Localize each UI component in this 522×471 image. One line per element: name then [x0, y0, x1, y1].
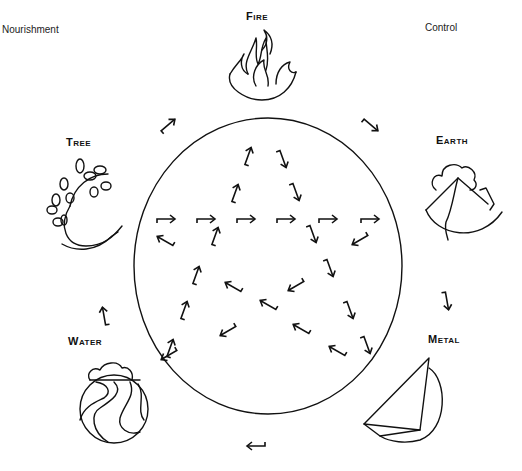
- nourishment-arrows: [98, 116, 452, 450]
- five-elements-diagram: [0, 0, 522, 471]
- metal-to-water-arrow: [247, 442, 265, 450]
- flame-icon: [229, 30, 296, 100]
- waves-icon: [80, 363, 148, 443]
- tree-to-fire-arrow: [159, 116, 178, 134]
- mountain-icon: [426, 165, 502, 240]
- control-arrows: [155, 146, 379, 363]
- central-circle: [134, 118, 402, 414]
- vine-icon: [47, 159, 122, 249]
- fire-to-earth-arrow: [362, 116, 381, 134]
- earth-to-metal-arrow: [441, 291, 452, 310]
- metal-triangle-icon: [364, 358, 442, 442]
- water-to-tree-arrow: [98, 306, 109, 325]
